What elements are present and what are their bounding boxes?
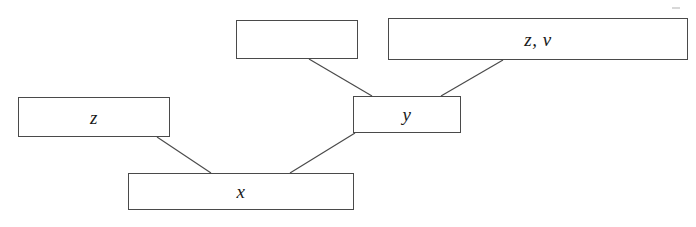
node-label-x: x xyxy=(237,182,246,201)
node-label-z: z xyxy=(90,108,98,127)
node-box-x[interactable]: x xyxy=(128,173,354,210)
node-label-zv: z, v xyxy=(524,30,551,49)
node-box-y[interactable]: y xyxy=(353,96,461,133)
edge-zv-to-y xyxy=(441,60,503,96)
node-box-zv[interactable]: z, v xyxy=(388,18,688,60)
node-box-z[interactable]: z xyxy=(18,97,170,137)
node-label-y: y xyxy=(403,105,412,124)
edge-y-to-x xyxy=(290,133,355,173)
node-box-empty-top[interactable] xyxy=(236,20,358,59)
edge-empty-top-to-y xyxy=(309,59,372,96)
diagram-canvas: z, vyzx xyxy=(0,0,696,227)
edge-z-to-x xyxy=(157,137,211,173)
scan-speck-top-right xyxy=(672,7,680,9)
